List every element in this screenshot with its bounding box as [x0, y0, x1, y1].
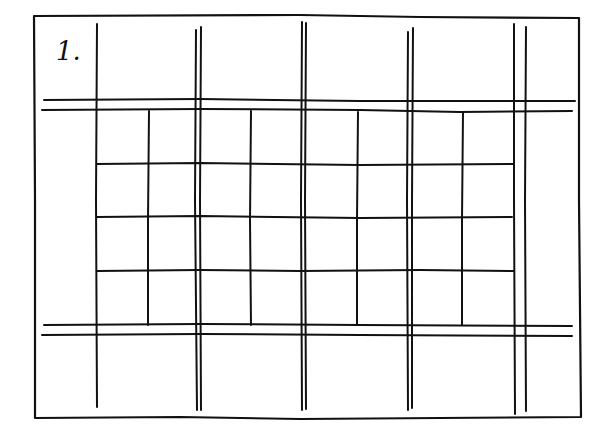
- inner-vertical-3: [357, 112, 358, 325]
- bottom-band-line-upper: [44, 324, 572, 326]
- grid-drawing: [0, 0, 607, 438]
- tall-vertical-3a: [301, 22, 302, 410]
- tall-vertical-4a: [407, 32, 408, 410]
- bottom-band-line-lower: [42, 334, 572, 336]
- tall-vertical-2b: [200, 27, 201, 410]
- tall-vertical-5b: [525, 27, 526, 411]
- inner-vertical-2: [250, 111, 251, 325]
- tall-vertical-5a: [514, 24, 515, 414]
- inner-vertical-1: [148, 111, 149, 325]
- tall-vertical-1: [96, 24, 97, 407]
- top-band-line-upper: [44, 99, 575, 101]
- inner-vertical-4: [462, 112, 463, 325]
- tall-vertical-3b: [305, 23, 306, 409]
- tall-vertical-2a: [195, 30, 197, 410]
- top-band-line-lower: [42, 109, 572, 112]
- tall-vertical-4b: [412, 28, 413, 408]
- figure-number-label: 1.: [56, 38, 81, 64]
